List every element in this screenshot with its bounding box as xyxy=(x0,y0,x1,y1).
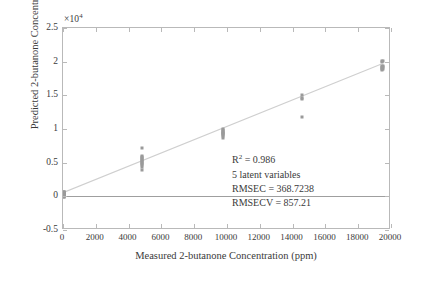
x-tick-mark xyxy=(194,224,195,228)
y-tick-mark-right xyxy=(385,129,389,130)
y-tick-label: 1 xyxy=(53,123,58,133)
y-axis-exponent-label: ×104 xyxy=(64,12,83,24)
y-tick-mark-right xyxy=(385,163,389,164)
data-point xyxy=(382,68,385,71)
y-tick-mark xyxy=(63,62,67,63)
data-point xyxy=(141,168,144,171)
y-axis-title: Predicted 2-butanone Concentration xyxy=(29,0,40,154)
x-tick-mark-top xyxy=(260,28,261,32)
y-tick-mark xyxy=(63,196,67,197)
x-tick-label: 12000 xyxy=(248,232,271,242)
x-tick-label: 6000 xyxy=(151,232,169,242)
plot-frame xyxy=(62,27,390,229)
x-tick-mark xyxy=(63,224,64,228)
x-tick-mark xyxy=(325,224,326,228)
y-tick-label: 0 xyxy=(53,190,58,200)
plot-area xyxy=(63,28,389,228)
x-tick-mark-top xyxy=(63,28,64,32)
statistics-annotation: R2 = 0.986 5 latent variables RMSEC = 36… xyxy=(232,150,314,210)
data-point xyxy=(222,136,225,139)
x-tick-mark xyxy=(391,224,392,228)
y-tick-mark-right xyxy=(385,95,389,96)
annotation-rmsec: RMSEC = 368.7238 xyxy=(232,182,314,196)
y-tick-label: 2.5 xyxy=(46,22,58,32)
x-tick-label: 20000 xyxy=(379,232,402,242)
annotation-latent-variables: 5 latent variables xyxy=(232,168,314,182)
x-tick-mark-top xyxy=(129,28,130,32)
y-tick-mark-right xyxy=(385,230,389,231)
data-point xyxy=(301,115,304,118)
regression-line xyxy=(63,28,389,228)
x-tick-label: 16000 xyxy=(313,232,336,242)
data-point xyxy=(301,98,304,101)
x-tick-label: 18000 xyxy=(346,232,369,242)
x-tick-mark-top xyxy=(293,28,294,32)
x-axis-tick-labels: 0200040006000800010000120001400016000180… xyxy=(62,232,390,246)
x-tick-mark xyxy=(96,224,97,228)
x-tick-mark-top xyxy=(96,28,97,32)
y-tick-label: -0.5 xyxy=(43,224,58,234)
x-tick-mark-top xyxy=(161,28,162,32)
data-point xyxy=(141,146,144,149)
x-tick-label: 4000 xyxy=(119,232,137,242)
figure-canvas: ×104 -0.500.511.522.5 020004000600080001… xyxy=(0,0,422,289)
y-tick-mark-right xyxy=(385,28,389,29)
y-tick-mark-right xyxy=(385,196,389,197)
y-axis-tick-labels: -0.500.511.522.5 xyxy=(22,27,58,229)
x-tick-mark-top xyxy=(227,28,228,32)
y-tick-mark xyxy=(63,163,67,164)
x-tick-mark xyxy=(293,224,294,228)
x-tick-mark-top xyxy=(391,28,392,32)
x-tick-label: 2000 xyxy=(86,232,104,242)
x-tick-mark xyxy=(129,224,130,228)
x-tick-mark xyxy=(358,224,359,228)
x-tick-mark xyxy=(260,224,261,228)
y-axis-exponent-power: 4 xyxy=(79,12,83,19)
y-axis-exponent-base: ×10 xyxy=(64,14,79,24)
x-tick-mark-top xyxy=(194,28,195,32)
x-tick-mark-top xyxy=(325,28,326,32)
annotation-r-squared: R2 = 0.986 xyxy=(232,150,314,168)
y-tick-mark xyxy=(63,230,67,231)
y-tick-label: 0.5 xyxy=(46,157,58,167)
x-tick-mark xyxy=(161,224,162,228)
x-axis-title: Measured 2-butanone Concentration (ppm) xyxy=(62,250,390,261)
y-tick-label: 1.5 xyxy=(46,89,58,99)
x-tick-mark xyxy=(227,224,228,228)
annotation-rmsecv: RMSECV = 857.21 xyxy=(232,196,314,210)
x-tick-mark-top xyxy=(358,28,359,32)
x-tick-label: 0 xyxy=(60,232,65,242)
x-tick-label: 8000 xyxy=(184,232,202,242)
y-tick-mark-right xyxy=(385,62,389,63)
x-tick-label: 14000 xyxy=(280,232,303,242)
x-tick-label: 10000 xyxy=(215,232,238,242)
y-tick-mark xyxy=(63,95,67,96)
y-tick-mark xyxy=(63,129,67,130)
y-tick-label: 2 xyxy=(53,56,58,66)
